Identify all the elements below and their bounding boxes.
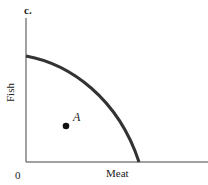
origin-label: 0: [15, 169, 21, 181]
point-a-label: A: [73, 110, 80, 125]
ppf-curve: [26, 56, 139, 162]
x-axis-label: Meat: [106, 167, 129, 179]
ppf-diagram: [0, 0, 208, 185]
y-axis-label: Fish: [4, 83, 16, 102]
point-a: [63, 123, 70, 130]
